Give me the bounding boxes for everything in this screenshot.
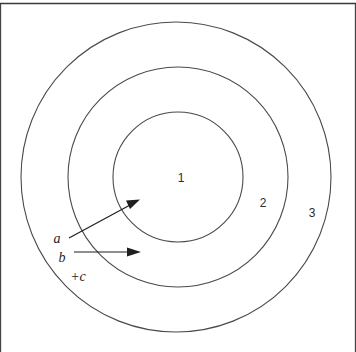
callout-a-leader: [69, 205, 131, 239]
callout-a-label: a: [54, 231, 61, 246]
ring-diagram: 1 2 3 a b +c: [0, 0, 356, 352]
callout-c-label: +c: [70, 269, 86, 284]
callout-b-arrowhead: [127, 248, 141, 257]
callout-a-arrowhead: [126, 200, 140, 210]
ring-label-3: 3: [309, 206, 316, 220]
figure-container: 1 2 3 a b +c: [0, 0, 356, 352]
callout-b-label: b: [59, 250, 66, 265]
ring-label-1: 1: [178, 171, 185, 185]
ring-label-2: 2: [260, 196, 267, 210]
